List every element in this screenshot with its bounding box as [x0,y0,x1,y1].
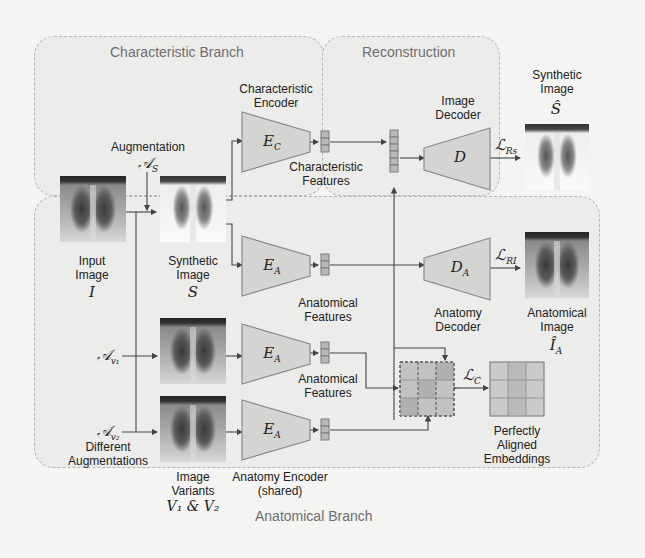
anatomical-features-v1-label: AnatomicalFeatures [298,372,357,400]
characteristic-encoder-symbol: EC [263,132,281,152]
image-variant-v2 [160,396,226,462]
anatomical-image [525,232,589,298]
augmentation-v1-symbol: 𝒜v₁ [97,346,120,366]
anatomy-encoder-caption: Anatomy Encoder(shared) [232,470,327,498]
image-variant-v1 [160,318,226,384]
synthetic-image-symbol: S [188,283,198,301]
image-variants-symbol: V₁ & V₂ [167,498,220,514]
anatomy-encoder-v1-symbol: EA [263,344,280,364]
input-image-label: InputImage [75,254,108,282]
reconstructed-synthetic-image [525,124,589,190]
image-decoder-symbol: D [454,148,466,166]
anatomical-image-symbol: ÎA [550,336,562,356]
output-synthetic-image-symbol: Ŝ [551,100,561,118]
similarity-matrix [400,362,454,416]
characteristic-encoder-title: CharacteristicEncoder [239,82,312,110]
image-variants-label: ImageVariants [171,470,214,498]
anatomy-encoder-top-symbol: EA [263,256,280,276]
augmentation-label: Augmentation [111,140,185,154]
synthetic-image-label: SyntheticImage [168,254,217,282]
loss-rs: ℒRs [495,136,517,156]
aligned-embeddings-label: PerfectlyAlignedEmbeddings [484,424,551,466]
synthetic-image [160,176,226,242]
anatomical-features-top-label: AnatomicalFeatures [298,296,357,324]
anatomy-decoder-title: AnatomyDecoder [434,306,481,334]
anatomical-image-label: AnatomicalImage [527,306,586,334]
output-synthetic-image-label: SyntheticImage [532,68,581,96]
augmentation-v2-symbol: 𝒜v₂ [97,422,120,442]
augmentation-symbol: 𝒜S [138,154,158,174]
input-image [60,176,126,242]
aligned-matrix [490,362,544,416]
loss-ri: ℒRI [495,246,516,266]
different-augmentations-label: DifferentAugmentations [68,440,148,468]
input-image-symbol: I [89,283,95,301]
image-decoder-title: ImageDecoder [435,94,480,122]
anatomy-encoder-v2-symbol: EA [263,420,280,440]
anatomy-decoder-symbol: DA [451,258,470,278]
loss-c: ℒC [463,366,481,386]
characteristic-features-label: CharacteristicFeatures [289,160,362,188]
